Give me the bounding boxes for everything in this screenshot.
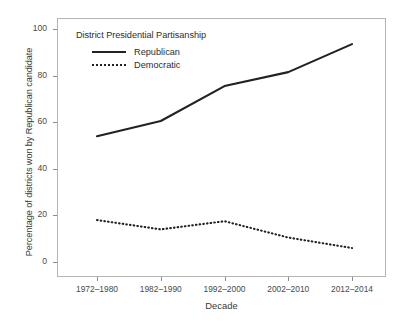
- y-tick-label: 60: [21, 117, 47, 126]
- solid-line-swatch-icon: [92, 47, 126, 57]
- x-tick-label: 2002–2010: [253, 284, 323, 294]
- chart-legend: District Presidential Partisanship Repub…: [76, 30, 266, 71]
- y-tick-label: 20: [21, 210, 47, 219]
- dotted-line-swatch-icon: [92, 60, 126, 70]
- x-tick-mark: [225, 277, 226, 281]
- x-tick-label: 1972–1980: [62, 284, 132, 294]
- legend-label-democratic: Democratic: [134, 60, 180, 70]
- x-tick-mark: [161, 277, 162, 281]
- y-tick-label: 100: [21, 24, 47, 33]
- x-tick-mark: [288, 277, 289, 281]
- chart-figure: Percentage of districts won by Republica…: [0, 0, 412, 323]
- y-axis-label: Percentage of districts won by Republica…: [22, 12, 36, 292]
- y-tick-label: 80: [21, 71, 47, 80]
- series-line-democratic: [97, 220, 352, 248]
- legend-item-republican: Republican: [92, 45, 266, 58]
- legend-item-democratic: Democratic: [92, 58, 266, 71]
- legend-title: District Presidential Partisanship: [76, 30, 266, 40]
- x-tick-mark: [352, 277, 353, 281]
- y-tick-label: 0: [21, 257, 47, 266]
- x-axis-label: Decade: [57, 300, 386, 311]
- y-tick-label: 40: [21, 164, 47, 173]
- x-tick-label: 1992–2000: [190, 284, 260, 294]
- x-tick-mark: [97, 277, 98, 281]
- x-tick-label: 1982–1990: [126, 284, 196, 294]
- x-tick-label: 2012–2014: [317, 284, 387, 294]
- legend-label-republican: Republican: [134, 47, 180, 57]
